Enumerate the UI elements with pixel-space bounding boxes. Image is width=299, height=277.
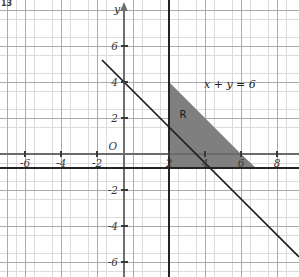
x-tick-label-neg4: -4 [56, 157, 66, 169]
graph-figure: 13 [0, 0, 299, 277]
x-tick-label-8: 8 [274, 157, 281, 169]
x-tick-label-neg6: -6 [20, 157, 31, 169]
y-tick-label-2: 2 [110, 112, 118, 124]
y-axis-label: y [113, 3, 121, 16]
region-label-R: R [180, 109, 187, 120]
y-tick-label-neg6: -6 [108, 256, 119, 268]
origin-label: O [108, 140, 117, 152]
y-tick-label-neg2: -2 [108, 184, 119, 196]
y-tick-label-neg4: -4 [108, 220, 118, 232]
equation-annotation: x + y = 6 [204, 78, 256, 91]
x-tick-label-neg2: -2 [92, 157, 103, 169]
page-corner-mark: 13 [1, 0, 12, 6]
y-tick-label-6: 6 [111, 40, 118, 52]
y-tick-label-4: 4 [110, 76, 118, 88]
x-tick-label-6: 6 [238, 157, 245, 169]
x-tick-label-4: 4 [201, 157, 209, 169]
coordinate-plane-svg: 6 4 2 -2 -4 -6 -6 -4 -2 2 4 6 8 O y x + … [0, 0, 299, 277]
x-tick-label-2: 2 [165, 157, 173, 169]
